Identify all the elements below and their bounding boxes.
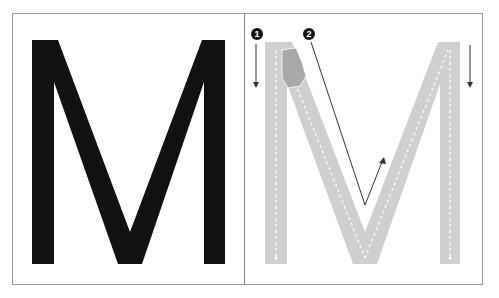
- trace-letter-m: [0, 0, 499, 298]
- arrow-right-down-icon: [467, 45, 473, 88]
- pencil-hand-icon: [282, 48, 306, 88]
- step-2-badge: 2: [303, 28, 315, 40]
- arrow-1-down-icon: [253, 44, 259, 88]
- step-1-badge: 1: [251, 28, 263, 40]
- start-dot: [275, 257, 278, 260]
- end-dot: [449, 257, 452, 260]
